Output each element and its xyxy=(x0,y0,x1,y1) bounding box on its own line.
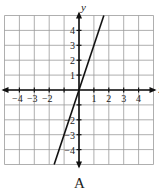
y-tick-label: 3 xyxy=(70,40,75,51)
y-tick-label: 4 xyxy=(70,25,75,36)
y-tick-label: 1 xyxy=(70,70,75,81)
x-axis-label: x xyxy=(158,84,160,95)
x-axis-left-arrow-icon xyxy=(2,87,9,93)
x-axis-right-arrow-icon xyxy=(150,87,157,93)
x-tick-label: 2 xyxy=(106,93,111,104)
y-axis-up-arrow-icon xyxy=(76,12,82,19)
x-tick-label: 1 xyxy=(91,93,96,104)
x-tick-label: −2 xyxy=(42,93,53,104)
coordinate-graph: −4−3−212344321−2−3−4xy xyxy=(0,0,159,195)
x-tick-label: −3 xyxy=(27,93,38,104)
x-tick-label: −4 xyxy=(12,93,23,104)
x-tick-label: 3 xyxy=(121,93,126,104)
y-tick-label: 2 xyxy=(70,55,75,66)
figure-caption: A xyxy=(0,175,159,192)
plot-area: −4−3−212344321−2−3−4xy xyxy=(0,0,159,175)
y-axis-label: y xyxy=(80,1,86,13)
y-tick-label: −4 xyxy=(64,145,75,156)
y-axis-down-arrow-icon xyxy=(76,162,82,169)
x-tick-label: 4 xyxy=(136,93,141,104)
